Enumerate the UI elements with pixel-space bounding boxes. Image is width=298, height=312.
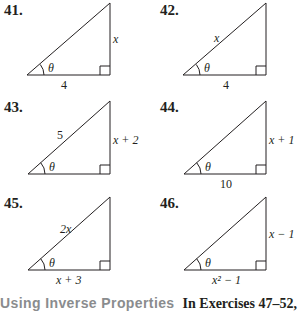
triangle-42 [183, 3, 266, 75]
angle-label-46: θ [205, 256, 211, 270]
triangle-41 [27, 3, 110, 75]
angle-label-42: θ [204, 61, 210, 75]
exercise-instruction: In Exercises 47–52, [183, 296, 297, 311]
section-footer: Using Inverse PropertiesIn Exercises 47–… [0, 294, 294, 312]
angle-label-44: θ [205, 160, 211, 174]
opposite-label-43: x + 2 [112, 133, 138, 147]
triangle-43 [28, 101, 110, 174]
opposite-label-41: x [112, 32, 119, 46]
angle-label-45: θ [49, 256, 55, 270]
section-heading: Using Inverse Properties [0, 295, 175, 311]
hypotenuse-label-43: 5 [57, 128, 63, 142]
triangle-44 [184, 101, 266, 174]
opposite-label-44: x + 1 [268, 133, 294, 147]
triangle-figures: θ x 4 θ x 4 θ 5 x + 2 θ x + 1 10 θ 2x x … [0, 0, 294, 290]
adjacent-label-45: x + 3 [55, 273, 81, 287]
triangle-46 [184, 197, 266, 270]
hypotenuse-label-45: 2x [60, 222, 72, 236]
opposite-label-46: x − 1 [268, 227, 294, 241]
angle-label-43: θ [49, 160, 55, 174]
adjacent-label-42: 4 [223, 78, 229, 92]
hypotenuse-label-42: x [213, 31, 220, 45]
adjacent-label-41: 4 [61, 78, 67, 92]
angle-label-41: θ [48, 61, 54, 75]
adjacent-label-44: 10 [220, 177, 232, 191]
adjacent-label-46: x² − 1 [211, 273, 241, 287]
